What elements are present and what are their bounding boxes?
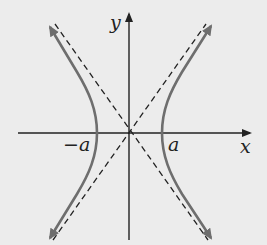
vertex-left-label: −a	[63, 133, 90, 155]
hyperbola-branches	[50, 26, 211, 238]
left-branch-upper	[50, 27, 97, 133]
asymptote-negative-slope	[55, 24, 208, 240]
hyperbola-diagram: y x −a a	[0, 0, 267, 245]
x-axis-label: x	[240, 135, 251, 157]
right-branch-upper	[162, 26, 211, 133]
asymptotes	[53, 24, 208, 240]
vertex-right-label: a	[168, 133, 179, 155]
y-axis-label: y	[109, 11, 121, 33]
